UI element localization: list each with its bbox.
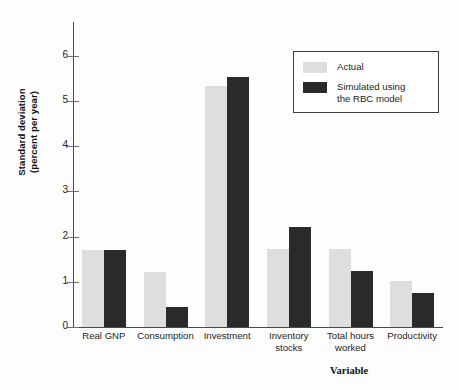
x-category-label: Real GNP: [73, 330, 135, 342]
y-axis-title-line1: Standard deviation: [16, 88, 27, 175]
y-axis-title-line2: (percent per year): [28, 42, 40, 222]
x-category-label-line2: worked: [320, 342, 382, 354]
legend: Actual Simulated using the RBC model: [293, 51, 439, 113]
bar-actual: [329, 249, 351, 327]
y-tick-label: 6: [62, 49, 68, 60]
legend-label-actual-line1: Actual: [337, 61, 364, 72]
y-tick-label: 4: [62, 139, 68, 150]
x-category-label-line1: Real GNP: [82, 330, 125, 341]
bar-simulated: [412, 293, 434, 327]
legend-label-simulated-line2: the RBC model: [337, 93, 405, 105]
x-category-label-line2: stocks: [258, 342, 320, 354]
x-category-label-line1: Investment: [204, 330, 251, 341]
bar-simulated: [351, 271, 373, 327]
y-tick-label: 3: [62, 184, 68, 195]
x-axis-line: [73, 327, 443, 328]
legend-label-simulated-line1: Simulated using: [337, 81, 405, 92]
y-tick-label: 5: [62, 94, 68, 105]
bar-actual: [267, 249, 289, 327]
legend-label-actual: Actual: [337, 61, 364, 73]
bar-simulated: [289, 227, 311, 327]
y-axis-title: Standard deviation (percent per year): [16, 42, 40, 222]
bar-actual: [390, 281, 412, 327]
x-category-label-line1: Inventory: [269, 330, 308, 341]
bar-actual: [205, 86, 227, 327]
legend-swatch-actual: [303, 62, 327, 73]
legend-item-actual: Actual: [303, 61, 364, 73]
x-category-label: Consumption: [135, 330, 197, 342]
x-category-label: Investment: [196, 330, 258, 342]
x-category-label-line1: Total hours: [327, 330, 374, 341]
x-axis-title: Variable: [330, 365, 440, 376]
y-tick-label: 0: [62, 320, 68, 331]
bar-simulated: [227, 77, 249, 327]
bar-actual: [82, 250, 104, 327]
bar-chart: Standard deviation (percent per year) 01…: [0, 0, 459, 390]
y-tick-label: 1: [62, 275, 68, 286]
x-category-label: Total hoursworked: [320, 330, 382, 353]
x-axis-category-labels: Real GNPConsumptionInvestmentInventoryst…: [73, 330, 443, 364]
y-tick-label: 2: [62, 230, 68, 241]
x-category-label: Inventorystocks: [258, 330, 320, 353]
legend-label-simulated: Simulated using the RBC model: [337, 81, 405, 104]
x-category-label-line1: Productivity: [387, 330, 437, 341]
y-tick-mark: [67, 327, 79, 328]
bar-simulated: [166, 307, 188, 327]
bar-simulated: [104, 250, 126, 327]
legend-swatch-simulated: [303, 82, 327, 93]
x-category-label-line1: Consumption: [137, 330, 194, 341]
bar-actual: [144, 272, 166, 327]
legend-item-simulated: Simulated using the RBC model: [303, 81, 405, 104]
x-category-label: Productivity: [381, 330, 443, 342]
